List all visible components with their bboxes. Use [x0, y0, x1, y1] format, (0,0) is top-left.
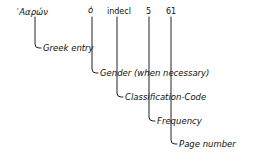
frequency-value: 5 [146, 8, 151, 16]
label-gender: Gender (when necessary) [100, 69, 209, 78]
gender-article: ὁ [88, 6, 93, 15]
label-page-number: Page number [179, 140, 236, 149]
page-value: 61 [166, 8, 176, 16]
greek-word: ᾿Ααρών [15, 8, 48, 17]
label-greek-entry: Greek entry [43, 44, 94, 53]
classification-value: indecl [107, 8, 131, 16]
label-frequency: Frequency [157, 117, 202, 126]
connector-lines [0, 0, 253, 161]
label-classification: Classification-Code [125, 93, 206, 102]
